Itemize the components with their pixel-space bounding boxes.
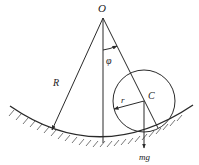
label-small-radius: r (121, 95, 125, 105)
label-big-radius: R (52, 77, 59, 88)
big-radius-arrow (52, 18, 103, 130)
small-radius-arrow (114, 101, 144, 109)
label-weight: mg (139, 152, 150, 162)
angle-arc (103, 46, 117, 50)
circular-surface (10, 105, 193, 137)
physics-diagram: O φ R r C mg (0, 0, 199, 165)
label-center: C (148, 90, 155, 101)
ground-hatching (9, 110, 182, 147)
label-origin: O (98, 2, 106, 14)
label-angle: φ (106, 55, 112, 66)
